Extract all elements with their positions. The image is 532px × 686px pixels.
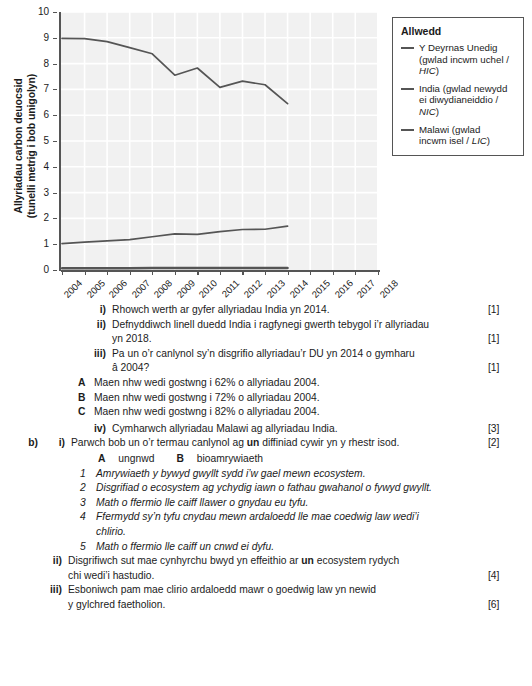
y-tick-label: 8 [27, 59, 49, 69]
definition-number: 2 [80, 481, 96, 496]
questions-section: i) Rhowch werth ar gyfer allyriadau Indi… [0, 303, 532, 686]
question-a-iv: iv) Cymharwch allyriadau Malawi ag allyr… [0, 422, 532, 437]
question-b-iii-line2: y gylchred faetholion. [68, 598, 480, 613]
terms-row: A ungnwdB bioamrywiaeth [98, 452, 263, 467]
option-text: Maen nhw wedi gostwng i 82% o allyriadau… [94, 405, 532, 420]
x-tick-label: 2007 [130, 278, 152, 300]
x-tick-label: 2012 [243, 278, 265, 300]
question-b-i-marks: [2] [484, 436, 532, 451]
x-tick-mark [378, 270, 379, 275]
x-tick-mark [62, 270, 63, 275]
definition-text: Amrywiaeth y bywyd gwyllt sydd i’w gael … [96, 467, 532, 482]
question-a-iv-label: iv) [80, 422, 112, 437]
y-tick-mark [53, 115, 57, 116]
x-tick-mark [107, 270, 108, 275]
definition-item[interactable]: 4Ffermydd sy’n tyfu cnydau mewn ardaloed… [0, 510, 532, 539]
x-tick-label: 2004 [62, 278, 84, 300]
definition-item[interactable]: 1Amrywiaeth y bywyd gwyllt sydd i’w gael… [0, 467, 532, 482]
x-tick-mark [333, 270, 334, 275]
definition-item[interactable]: 3Math o ffermio lle caiff llawer o gnyda… [0, 496, 532, 511]
question-b-ii-line1-bold: un [301, 555, 314, 566]
y-tick-label: 9 [27, 33, 49, 43]
legend-rows: Y Deyrnas Unedig(gwlad incwm uchel / HIC… [401, 42, 517, 147]
legend-entry-label: Malawi (gwladincwm isel / LIC) [419, 124, 490, 147]
legend-entry-line1: Malawi (gwlad [419, 124, 490, 136]
legend-entry-line2: incwm isel / LIC) [419, 135, 490, 147]
definition-text: Math o ffermio lle caiff llawer o gnydau… [96, 496, 532, 511]
question-a-ii-label: ii) [80, 318, 112, 333]
question-a-i-label: i) [80, 303, 112, 318]
question-b-iii-label: iii) [34, 583, 68, 598]
y-tick-label: 6 [27, 110, 49, 120]
plot-wrap [61, 12, 378, 270]
question-a-i: i) Rhowch werth ar gyfer allyriadau Indi… [0, 303, 532, 318]
question-a-iii-marks: [1] [484, 361, 532, 376]
question-b-i-text-bold: un [247, 437, 260, 448]
y-tick-label: 2 [27, 213, 49, 223]
definition-text: Disgrifiad o ecosystem ag ychydig iawn o… [96, 481, 532, 496]
definition-line1: Ffermydd sy’n tyfu cnydau mewn ardaloedd… [96, 510, 528, 525]
x-tick-label: 2015 [310, 278, 332, 300]
y-tick-mark [53, 218, 57, 219]
legend-entry-label: India (gwlad newyddei diwydianeiddio / N… [419, 83, 517, 118]
x-tick-mark [175, 270, 176, 275]
y-tick-mark [53, 193, 57, 194]
question-a-iv-marks: [3] [484, 422, 532, 437]
y-tick-label: 3 [27, 188, 49, 198]
x-tick-mark [265, 270, 266, 275]
question-b-ii-line1: Disgrifiwch sut mae cynhyrchu bwyd yn ef… [68, 554, 480, 569]
x-tick-label: 2014 [288, 278, 310, 300]
question-b-i: b) i) Parwch bob un o’r termau canlynol … [0, 436, 532, 451]
definition-line1: Math o ffermio lle caiff un cnwd ei dyfu… [96, 540, 528, 555]
x-tick-label: 2006 [107, 278, 129, 300]
term-letter: B [176, 453, 183, 464]
question-a-iii-line2: â 2004? [112, 361, 480, 376]
definition-text: Ffermydd sy’n tyfu cnydau mewn ardaloedd… [96, 510, 532, 539]
definition-item[interactable]: 5Math o ffermio lle caiff un cnwd ei dyf… [0, 540, 532, 555]
question-b-iii-marks: [6] [484, 598, 532, 613]
legend-entry-label: Y Deyrnas Unedig(gwlad incwm uchel / HIC… [419, 42, 517, 77]
question-a-iii-option[interactable]: AMaen nhw wedi gostwng i 62% o allyriada… [0, 376, 532, 391]
y-tick-mark [53, 38, 57, 39]
x-tick-label: 2008 [152, 278, 174, 300]
definition-line1: Amrywiaeth y bywyd gwyllt sydd i’w gael … [96, 467, 528, 482]
question-b-iii: iii) Esboniwch pam mae clirio ardaloedd … [0, 583, 532, 612]
emissions-line-chart: Allyriadau carbon deuocsid (tunelli metr… [0, 0, 532, 300]
question-b-i-text-pre: Parwch bob un o’r termau canlynol ag [71, 437, 247, 448]
y-axis-ticks: 012345678910 [31, 12, 57, 270]
x-tick-label: 2013 [265, 278, 287, 300]
x-tick-label: 2005 [85, 278, 107, 300]
term-letter: A [98, 453, 105, 464]
option-text: Maen nhw wedi gostwng i 72% o allyriadau… [94, 391, 532, 406]
term-item[interactable]: A ungnwd [98, 452, 154, 467]
option-letter: C [78, 405, 94, 420]
x-tick-mark [355, 270, 356, 275]
legend-title: Allwedd [401, 25, 517, 37]
question-a-ii-line2: yn 2018. [112, 332, 480, 347]
question-b-i-label: i) [43, 436, 71, 451]
plot-svg [61, 12, 378, 270]
y-tick-mark [53, 141, 57, 142]
y-axis-title-line1: Allyriadau carbon deuocsid [12, 26, 25, 266]
term-label: bioamrywiaeth [194, 453, 263, 464]
x-tick-label: 2009 [175, 278, 197, 300]
legend-entry-line2: ei diwydianeiddio / NIC) [419, 94, 517, 117]
y-tick-mark [53, 12, 57, 13]
question-a-iii-option[interactable]: CMaen nhw wedi gostwng i 82% o allyriada… [0, 405, 532, 420]
term-item[interactable]: B bioamrywiaeth [176, 452, 263, 467]
definition-text: Math o ffermio lle caiff un cnwd ei dyfu… [96, 540, 532, 555]
question-a-iii-options: AMaen nhw wedi gostwng i 62% o allyriada… [0, 376, 532, 420]
y-tick-label: 4 [27, 162, 49, 172]
legend-entry: India (gwlad newyddei diwydianeiddio / N… [401, 83, 517, 118]
question-b-i-text-post: diffiniad cywir yn y rhestr isod. [259, 437, 399, 448]
definition-item[interactable]: 2Disgrifiad o ecosystem ag ychydig iawn … [0, 481, 532, 496]
question-a-iii-option[interactable]: BMaen nhw wedi gostwng i 72% o allyriada… [0, 391, 532, 406]
option-letter: B [78, 391, 94, 406]
x-tick-label: 2011 [220, 278, 242, 300]
x-tick-mark [288, 270, 289, 275]
y-tick-label: 10 [27, 7, 49, 17]
question-b-label: b) [16, 436, 43, 451]
x-tick-mark [220, 270, 221, 275]
x-tick-mark [197, 270, 198, 275]
question-a-iii: iii) Pa un o’r canlynol sy’n disgrifio a… [0, 347, 532, 376]
